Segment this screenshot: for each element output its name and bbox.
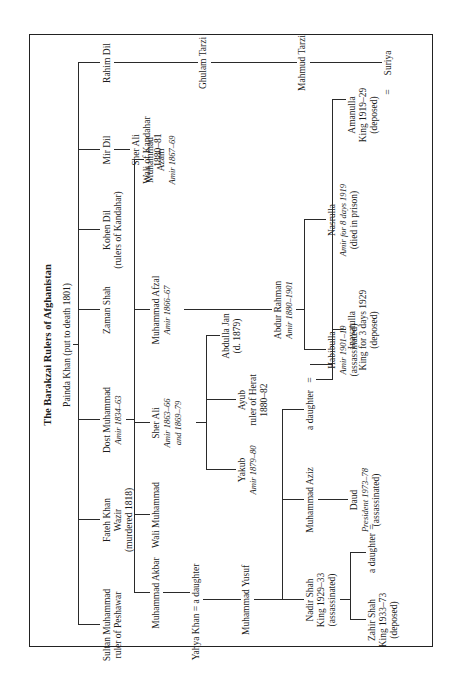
connector bbox=[282, 409, 304, 410]
connector bbox=[304, 349, 326, 350]
person-ayub: Ayubruler of Herat1880–82 bbox=[237, 374, 270, 426]
person-abdur-rahman: Abdur RahmanAmir 1880–1901 bbox=[273, 281, 295, 339]
connector bbox=[114, 62, 198, 63]
connector bbox=[282, 499, 304, 500]
connector bbox=[134, 159, 144, 160]
person-amanulla: AmanullaKing 1919–29(deposed) bbox=[347, 88, 380, 143]
connector bbox=[206, 399, 236, 400]
marriage-sign: = bbox=[383, 89, 394, 94]
marriage-sign: = bbox=[305, 377, 316, 382]
person-ghulam-tarzi: Ghulam Tarzi bbox=[198, 37, 209, 89]
connector bbox=[134, 592, 150, 593]
connector bbox=[78, 63, 79, 625]
connector bbox=[78, 309, 100, 310]
root-person: Painda Khan (put to death 1801) bbox=[62, 283, 73, 407]
connector bbox=[114, 149, 130, 150]
connector bbox=[316, 379, 332, 380]
connector bbox=[350, 552, 366, 553]
person-zaman-shah: Zaman Shah bbox=[102, 286, 113, 334]
connector bbox=[332, 99, 346, 100]
family-tree-diagram: The Barakzai Rulers of Afghanistan Paind… bbox=[0, 0, 455, 690]
person-sultan-muhammad: Sultan Muhammadruler of Peshawar bbox=[102, 589, 124, 662]
connector bbox=[282, 599, 304, 600]
connector bbox=[78, 519, 100, 520]
person-muhammad-akbar: Muhammad Akbar bbox=[151, 557, 162, 629]
connector bbox=[196, 422, 206, 423]
connector bbox=[310, 364, 332, 365]
connector bbox=[350, 553, 351, 620]
person-mir-dil: Mir Dil bbox=[102, 136, 113, 165]
person-yahya-khan: Yahya Khan = a daughter bbox=[191, 564, 202, 661]
connector bbox=[78, 62, 100, 63]
connector bbox=[134, 160, 135, 593]
connector bbox=[78, 419, 100, 420]
connector bbox=[206, 336, 207, 470]
person-dost-muhammad: Dost MuhammadAmir 1834–63 bbox=[102, 387, 124, 453]
connector bbox=[206, 335, 220, 336]
person-nadir-daughter: a daughter bbox=[367, 533, 378, 573]
connector bbox=[134, 309, 150, 310]
connector bbox=[332, 329, 346, 330]
person-daud: DaudPresident 1973–78(assassinated) bbox=[349, 468, 382, 532]
person-mahmud-tarzi: Mahmud Tarzi bbox=[297, 35, 308, 91]
connector bbox=[304, 220, 305, 350]
connector bbox=[203, 599, 241, 600]
person-rahim-dil: Rahim Dil bbox=[102, 43, 113, 83]
connector bbox=[282, 410, 283, 600]
connector bbox=[134, 514, 150, 515]
connector bbox=[296, 309, 304, 310]
person-muhammad-aziz: Muhammad Aziz bbox=[305, 467, 316, 533]
person-muhammad-azam: MuhammadAzamAmir 1867–69 bbox=[145, 136, 178, 185]
connector bbox=[163, 592, 190, 593]
connector bbox=[126, 419, 134, 420]
person-yakub: YakubAmir 1879–80 bbox=[237, 446, 259, 495]
connector bbox=[318, 499, 348, 500]
connector bbox=[332, 100, 333, 380]
person-nadir-shah: Nadir ShahKing 1929–33(assassinated) bbox=[305, 573, 338, 628]
connector bbox=[211, 62, 297, 63]
connector bbox=[184, 309, 272, 310]
connector bbox=[206, 469, 236, 470]
person-suriya: Suriya bbox=[383, 51, 394, 76]
connector bbox=[340, 599, 350, 600]
connector bbox=[78, 229, 100, 230]
connector bbox=[254, 599, 282, 600]
person-muhammad-yusuf: Muhammad Yusuf bbox=[241, 565, 252, 635]
connector bbox=[310, 62, 382, 63]
person-fateh-khan: Fateh KhanWazir(murdered 1818) bbox=[102, 488, 135, 552]
connector bbox=[304, 219, 326, 220]
marriage-sign: = bbox=[367, 524, 378, 529]
person-inayatulla: InayatullaKing for 3 days 1929(deposed) bbox=[347, 290, 380, 371]
person-zahir-shah: Zahir ShahKing 1933–73(deposed) bbox=[367, 593, 400, 648]
person-abdulla-jan: Abdulla Jan(d. 1879) bbox=[221, 313, 243, 359]
person-wali-muhammad: Wali Muhammad bbox=[151, 482, 162, 548]
person-kohen-dil: Kohen Dil(rulers of Kandahar) bbox=[102, 191, 124, 269]
connector bbox=[78, 624, 100, 625]
connector bbox=[134, 422, 150, 423]
person-sher-ali-amir: Sher AliAmir 1863–66and 1869–79 bbox=[151, 399, 184, 448]
diagram-title: The Barakzai Rulers of Afghanistan bbox=[42, 264, 53, 426]
person-muhammad-afzal: Muhammad AfzalAmir 1866–67 bbox=[151, 276, 173, 345]
connector bbox=[350, 619, 366, 620]
connector bbox=[78, 149, 100, 150]
person-yusuf-daughter: a daughter bbox=[305, 390, 316, 430]
